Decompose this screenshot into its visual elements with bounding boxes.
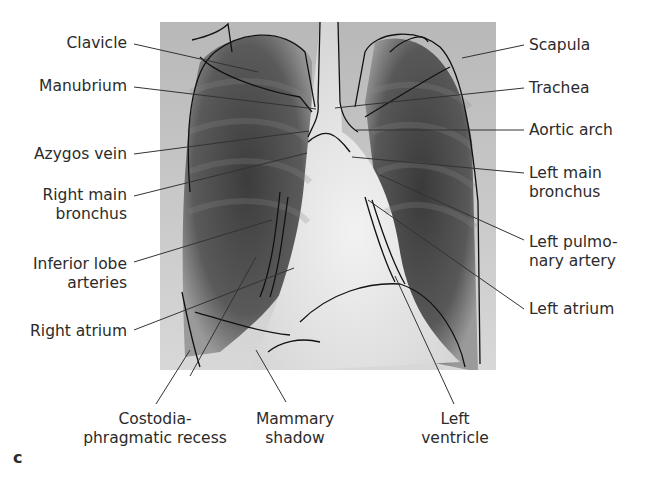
label-right-main-bronchus: Right main bronchus xyxy=(43,186,127,224)
label-text: bronchus xyxy=(529,183,602,202)
label-text: Left atrium xyxy=(529,300,614,319)
label-clavicle: Clavicle xyxy=(67,34,127,53)
label-left-pulmonary-artery: Left pulmo- nary artery xyxy=(529,233,618,271)
label-mammary-shadow: Mammary shadow xyxy=(250,410,340,448)
label-costodiaphragmatic-recess: Costodia- phragmatic recess xyxy=(70,410,240,448)
label-left-main-bronchus: Left main bronchus xyxy=(529,164,602,202)
label-left-atrium: Left atrium xyxy=(529,300,614,319)
label-text: shadow xyxy=(250,429,340,448)
label-text: Left main xyxy=(529,164,602,183)
label-text: Left xyxy=(410,410,500,429)
label-left-ventricle: Left ventricle xyxy=(410,410,500,448)
label-text: arteries xyxy=(33,274,127,293)
label-text: Aortic arch xyxy=(529,121,613,140)
label-text: bronchus xyxy=(43,205,127,224)
label-text: Scapula xyxy=(529,36,590,55)
label-inferior-lobe-arteries: Inferior lobe arteries xyxy=(33,255,127,293)
label-text: nary artery xyxy=(529,252,618,271)
label-manubrium: Manubrium xyxy=(39,77,127,96)
label-text: Right atrium xyxy=(30,322,127,341)
label-text: Azygos vein xyxy=(34,145,127,164)
label-right-atrium: Right atrium xyxy=(30,322,127,341)
label-text: ventricle xyxy=(410,429,500,448)
label-text: Clavicle xyxy=(67,34,127,53)
label-aortic-arch: Aortic arch xyxy=(529,121,613,140)
label-azygos-vein: Azygos vein xyxy=(34,145,127,164)
label-text: Trachea xyxy=(529,79,589,98)
label-text: Manubrium xyxy=(39,77,127,96)
label-trachea: Trachea xyxy=(529,79,589,98)
label-text: Costodia- xyxy=(70,410,240,429)
label-text: Right main xyxy=(43,186,127,205)
chest-xray-image xyxy=(160,22,496,370)
label-text: Mammary xyxy=(250,410,340,429)
label-scapula: Scapula xyxy=(529,36,590,55)
panel-letter: c xyxy=(13,448,22,467)
label-text: Left pulmo- xyxy=(529,233,618,252)
label-text: phragmatic recess xyxy=(70,429,240,448)
label-text: Inferior lobe xyxy=(33,255,127,274)
